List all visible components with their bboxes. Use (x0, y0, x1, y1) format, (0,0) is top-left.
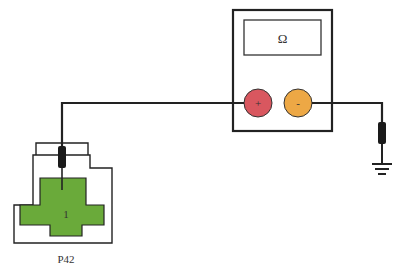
ground-probe (372, 122, 392, 174)
positive-lead-wire (62, 103, 244, 147)
probe-body[interactable] (58, 146, 66, 168)
multimeter: Ω + - (233, 10, 332, 131)
ohm-symbol: Ω (278, 31, 288, 46)
connector-label: P42 (57, 253, 74, 265)
ground-probe-body (378, 122, 386, 144)
positive-symbol: + (255, 97, 261, 109)
circuit-diagram: Ω + - 1 P42 (0, 0, 399, 273)
negative-symbol: - (296, 97, 300, 109)
pin-label: 1 (63, 208, 69, 220)
